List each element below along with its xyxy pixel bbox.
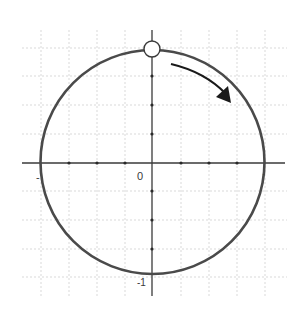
unit-circle-diagram: - 0 -1 · bbox=[0, 0, 303, 312]
label-bottom-y: -1 bbox=[137, 277, 146, 288]
label-origin: 0 bbox=[137, 170, 143, 182]
top-point-marker bbox=[144, 41, 160, 57]
clockwise-arrow-icon bbox=[171, 64, 231, 103]
axes bbox=[22, 30, 285, 296]
label-left-x: - bbox=[36, 171, 40, 183]
label-right-x: · bbox=[262, 169, 265, 179]
